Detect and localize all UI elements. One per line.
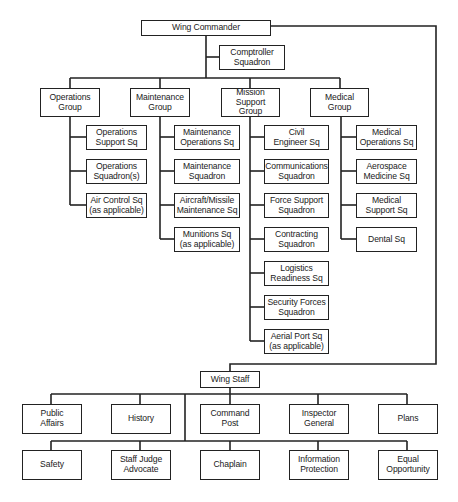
maint-squadron-box: Munitions Sq (as applicable) [174,227,240,252]
ms-squadron-box: Logistics Readiness Sq [264,261,329,286]
ops-squadron-box: Operations Squadron(s) [86,159,147,184]
maint-squadron-box: Maintenance Operations Sq [174,125,240,150]
staff-office-box: Information Protection [289,450,349,480]
wing-staff-box: Wing Staff [200,371,260,388]
ops-squadron-box: Air Control Sq (as applicable) [86,193,147,218]
maint-squadron-box: Maintenance Squadron [174,159,240,184]
maintenance-group-box: Maintenance Group [130,88,190,117]
ms-squadron-box: Contracting Squadron [264,227,329,252]
wing-commander-box: Wing Commander [141,20,271,36]
staff-office-box: Staff Judge Advocate [111,450,171,480]
mission-support-group-box: Mission Support Group [221,88,280,117]
ms-squadron-box: Aerial Port Sq (as applicable) [264,329,329,354]
org-chart: Wing Commander Comptroller Squadron Oper… [0,0,458,502]
ms-squadron-box: Security Forces Squadron [264,295,329,320]
staff-office-box: Chaplain [200,450,260,480]
ms-squadron-box: Civil Engineer Sq [264,125,329,150]
med-squadron-box: Medical Support Sq [356,193,417,218]
ms-squadron-box: Communications Squadron [264,159,329,184]
ms-squadron-box: Force Support Squadron [264,193,329,218]
med-squadron-box: Medical Operations Sq [356,125,417,150]
staff-office-box: Equal Opportunity [378,450,438,480]
staff-office-box: History [111,404,171,434]
maint-squadron-box: Aircraft/Missile Maintenance Sq [174,193,240,218]
staff-office-box: Safety [22,450,82,480]
staff-office-box: Command Post [200,404,260,434]
ops-squadron-box: Operations Support Sq [86,125,147,150]
staff-office-box: Public Affairs [22,404,82,434]
operations-group-box: Operations Group [40,88,100,117]
staff-office-box: Plans [378,404,438,434]
med-squadron-box: Dental Sq [356,227,417,252]
med-squadron-box: Aerospace Medicine Sq [356,159,417,184]
staff-office-box: Inspector General [289,404,349,434]
medical-group-box: Medical Group [310,88,369,117]
comptroller-squadron-box: Comptroller Squadron [219,45,285,70]
